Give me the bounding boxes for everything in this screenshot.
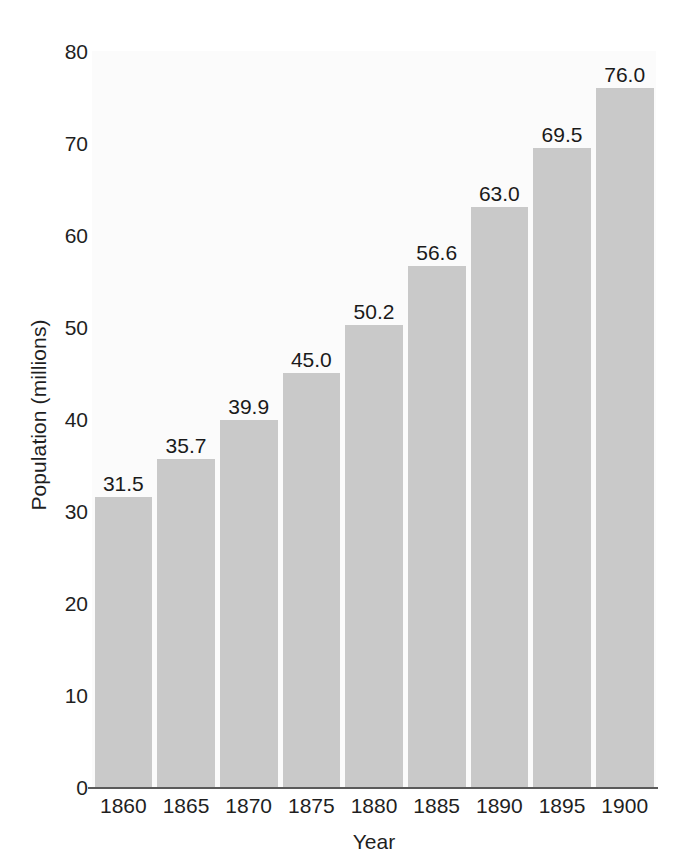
y-axis-tick-label: 30 xyxy=(65,501,88,522)
bar-slot: 76.0 xyxy=(593,51,656,787)
x-axis-tick-label: 1870 xyxy=(217,793,280,818)
bars-layer: 31.535.739.945.050.256.663.069.576.0 xyxy=(92,51,656,787)
y-axis-tick-label: 80 xyxy=(65,41,88,62)
bar-value-label: 50.2 xyxy=(354,301,395,322)
bar-slot: 31.5 xyxy=(92,51,155,787)
x-axis-line xyxy=(88,787,658,789)
plot-area: 31.535.739.945.050.256.663.069.576.0 xyxy=(92,51,656,787)
bar-value-label: 31.5 xyxy=(103,473,144,494)
bar[interactable]: 56.6 xyxy=(408,266,466,787)
y-axis-tick-label: 50 xyxy=(65,317,88,338)
bar[interactable]: 31.5 xyxy=(95,497,153,787)
bar-slot: 45.0 xyxy=(280,51,343,787)
bar-slot: 63.0 xyxy=(468,51,531,787)
bar-value-label: 69.5 xyxy=(542,124,583,145)
bar-value-label: 63.0 xyxy=(479,183,520,204)
bar[interactable]: 45.0 xyxy=(283,373,341,787)
bar-slot: 35.7 xyxy=(155,51,218,787)
x-axis-tick-label: 1900 xyxy=(593,793,656,818)
x-axis-tick-label: 1865 xyxy=(155,793,218,818)
x-axis-tick-label: 1890 xyxy=(468,793,531,818)
bar-slot: 39.9 xyxy=(217,51,280,787)
bar-value-label: 45.0 xyxy=(291,349,332,370)
x-axis-tick-label: 1880 xyxy=(343,793,406,818)
bar-chart-figure: Population (millions) 01020304050607080 … xyxy=(0,0,678,864)
bar-value-label: 35.7 xyxy=(166,435,207,456)
bar[interactable]: 35.7 xyxy=(157,459,215,787)
bar[interactable]: 39.9 xyxy=(220,420,278,787)
y-axis-tick-label: 70 xyxy=(65,133,88,154)
bar-value-label: 39.9 xyxy=(228,396,269,417)
bar-value-label: 56.6 xyxy=(416,242,457,263)
x-axis-tick-label: 1860 xyxy=(92,793,155,818)
x-axis-title: Year xyxy=(92,830,656,854)
bar-value-label: 76.0 xyxy=(604,64,645,85)
bar[interactable]: 50.2 xyxy=(345,325,403,787)
y-axis-tick-label: 40 xyxy=(65,409,88,430)
bar[interactable]: 63.0 xyxy=(471,207,529,787)
y-axis-tick-label: 0 xyxy=(76,777,88,798)
y-axis-tick-label: 60 xyxy=(65,225,88,246)
bar[interactable]: 69.5 xyxy=(533,148,591,787)
y-axis-tick-label: 10 xyxy=(65,685,88,706)
y-axis-tick-label: 20 xyxy=(65,593,88,614)
x-axis-tick-label: 1885 xyxy=(405,793,468,818)
y-axis-tick-labels: 01020304050607080 xyxy=(42,0,88,864)
bar[interactable]: 76.0 xyxy=(596,88,654,787)
x-axis-tick-label: 1895 xyxy=(531,793,594,818)
bar-slot: 69.5 xyxy=(531,51,594,787)
bar-slot: 56.6 xyxy=(405,51,468,787)
bar-slot: 50.2 xyxy=(343,51,406,787)
x-axis-tick-labels: 186018651870187518801885189018951900 xyxy=(92,793,656,818)
x-axis-tick-label: 1875 xyxy=(280,793,343,818)
